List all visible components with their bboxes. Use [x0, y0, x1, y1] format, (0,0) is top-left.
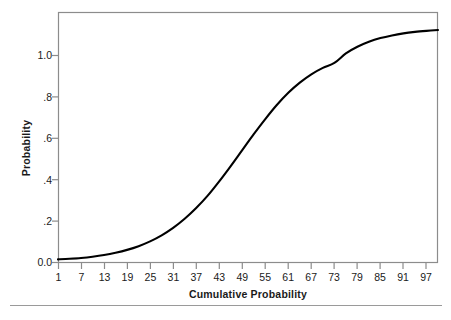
figure-bottom-rule: [10, 305, 442, 306]
x-tick-label: 97: [411, 272, 441, 283]
x-axis-title: Cumulative Probability: [58, 288, 438, 300]
chart-figure: Probability 0.0 .2 .4 .6 .8 1.0 1 7 13 1…: [0, 0, 451, 320]
x-axis-tick-labels: 1 7 13 19 25 31 37 43 49 55 61 67 73 79 …: [0, 0, 451, 320]
